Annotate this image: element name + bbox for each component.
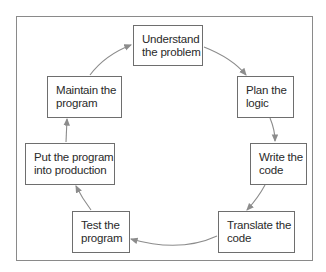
node-understand-the-problem: Understand the problem xyxy=(133,25,203,66)
node-translate-the-code: Translate the code xyxy=(218,211,295,253)
node-label: Write the code xyxy=(251,151,303,177)
node-maintain-the-program: Maintain the program xyxy=(47,76,122,118)
node-write-the-code: Write the code xyxy=(250,143,307,185)
arrow-translate-to-test xyxy=(131,236,217,245)
node-label: Translate the code xyxy=(219,219,291,245)
node-plan-the-logic: Plan the logic xyxy=(237,76,294,118)
arrow-maintain-to-understand xyxy=(90,45,131,75)
arrow-understand-to-plan xyxy=(204,47,246,75)
arrow-production-to-maintain xyxy=(66,119,67,142)
arrow-test-to-production xyxy=(76,186,91,210)
node-label: Plan the logic xyxy=(238,84,287,110)
node-label: Put the program into production xyxy=(26,151,113,177)
node-put-into-production: Put the program into production xyxy=(25,143,115,185)
node-label: Maintain the program xyxy=(48,84,116,110)
node-test-the-program: Test the program xyxy=(72,211,130,253)
node-label: Test the program xyxy=(73,219,122,245)
arrow-write-to-translate xyxy=(247,185,265,210)
node-label: Understand the problem xyxy=(134,33,201,59)
arrow-plan-to-write xyxy=(270,118,275,141)
